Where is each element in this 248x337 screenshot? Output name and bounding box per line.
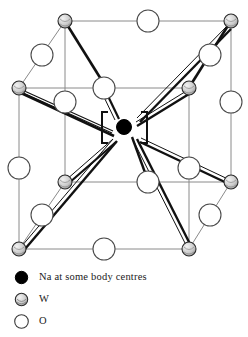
legend: Na at some body centres W xyxy=(0,266,248,337)
o-back-right-lower xyxy=(199,204,221,226)
bond-na-to-lower-right xyxy=(133,139,191,247)
bond-wbacktopleft-to-o xyxy=(66,23,104,84)
bond-o-back-right-vert-to-na xyxy=(137,25,231,122)
crystal-structure-figure-page: Na at some body centres W xyxy=(0,0,248,337)
shaded-circle-icon xyxy=(13,291,30,308)
o-back-left-vertical xyxy=(54,91,76,113)
na-body-centre-atom xyxy=(117,120,132,135)
o-back-right-vertical xyxy=(220,91,242,113)
o-back-top-edge xyxy=(137,10,159,32)
filled-circle-icon xyxy=(13,269,30,286)
o-front-left-vertical xyxy=(8,157,30,179)
unit-cell-diagram xyxy=(0,0,248,266)
bond-w-backbottomleft-up xyxy=(66,139,116,183)
legend-label-w: W xyxy=(39,294,49,305)
legend-item-na: Na at some body centres xyxy=(0,266,248,288)
legend-item-o: O xyxy=(0,310,248,332)
legend-label-o: O xyxy=(39,316,47,327)
o-back-right-upper xyxy=(199,44,221,66)
legend-item-w: W xyxy=(0,288,248,310)
o-back-left-lower xyxy=(31,204,53,226)
o-front-bottom-edge xyxy=(93,238,115,260)
bond-wfrontright-to-na xyxy=(136,90,189,126)
legend-label-na: Na at some body centres xyxy=(39,272,147,283)
bond-na-to-lower-left xyxy=(21,139,117,249)
open-circle-icon xyxy=(13,313,30,330)
o-front-right-vertical xyxy=(178,157,200,179)
unit-cell-svg xyxy=(0,0,248,266)
o-front-top-edge xyxy=(93,77,115,99)
o-atom-group xyxy=(8,10,242,260)
o-back-bottom-edge xyxy=(137,171,159,193)
o-back-left-upper xyxy=(31,44,53,66)
